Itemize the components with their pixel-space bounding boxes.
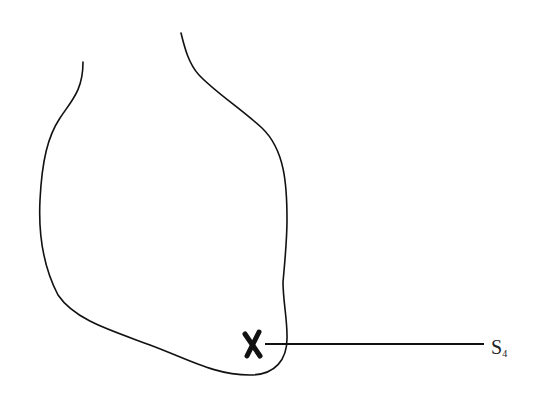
diagram-canvas: S4 [0,0,535,399]
x-marker-icon [245,332,260,356]
heart-outline [40,33,287,375]
s4-label: S4 [491,336,507,359]
heart-outline-drawing [0,0,535,399]
